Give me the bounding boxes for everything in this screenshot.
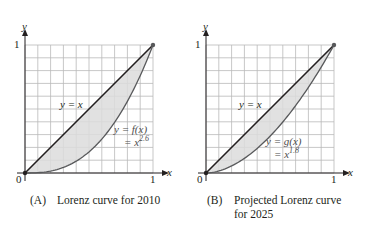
lorenz-plot-2025: y 1 0 1 x y = x y = g(x) = x1.8 (181, 0, 364, 225)
x-axis-label: x (347, 166, 353, 178)
x-tick-one: 1 (331, 173, 337, 185)
caption-text: Lorenz curve for 2010 (57, 194, 160, 206)
y-axis-label: y (202, 20, 208, 32)
caption-tag: (A) (30, 193, 57, 207)
origin-tick: 0 (16, 173, 22, 185)
panel-lorenz-2010: y 1 0 1 x y = x y = f(x) = x2.6 (A)Loren… (0, 0, 183, 225)
curve-formula: = x2.6 (124, 134, 149, 148)
origin-tick: 0 (197, 173, 203, 185)
y-axis-label: y (21, 20, 27, 32)
caption: (B)Projected Lorenz curve for 2025 (207, 193, 341, 221)
end-point (151, 43, 155, 47)
caption-tag: (B) (207, 193, 234, 207)
x-axis-label: x (166, 166, 172, 178)
y-tick-one: 1 (195, 38, 201, 50)
origin-point (204, 171, 208, 175)
caption: (A)Lorenz curve for 2010 (30, 193, 160, 207)
end-point (332, 43, 336, 47)
caption-text: Projected Lorenz curve (234, 194, 341, 206)
diagonal-label: y = x (238, 98, 262, 110)
origin-point (23, 171, 27, 175)
panel-lorenz-2025: y 1 0 1 x y = x y = g(x) = x1.8 (B)Proje… (181, 0, 364, 225)
y-tick-one: 1 (14, 38, 20, 50)
x-tick-one: 1 (150, 173, 156, 185)
lorenz-plot-2010: y 1 0 1 x y = x y = f(x) = x2.6 (0, 0, 183, 225)
diagonal-label: y = x (59, 98, 83, 110)
caption-text-line2: for 2025 (234, 208, 273, 220)
